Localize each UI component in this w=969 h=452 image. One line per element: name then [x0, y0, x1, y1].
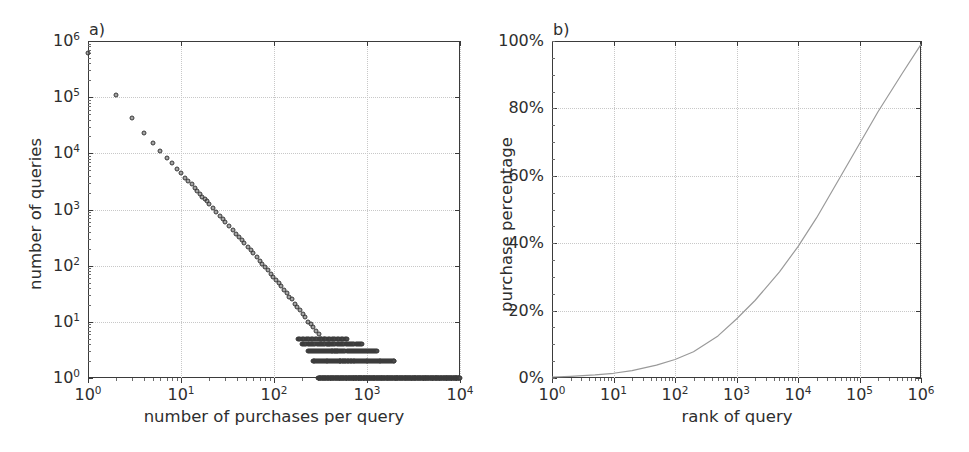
cumulative-purchase-curve	[0, 0, 969, 452]
figure-canvas: a) number of queries number of purchases…	[0, 0, 969, 452]
